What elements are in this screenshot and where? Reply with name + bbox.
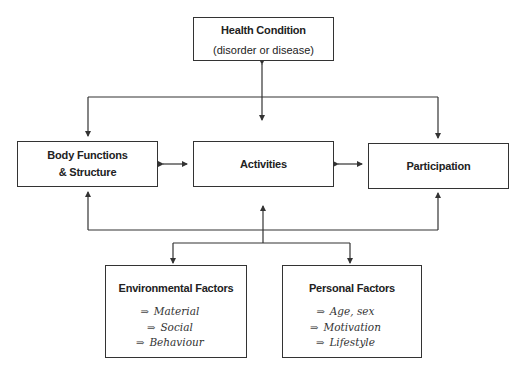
item-label: Lifestyle <box>329 336 375 348</box>
implies-arrow-icon: ⇒ <box>147 322 155 333</box>
health-condition-title: Health Condition <box>221 22 306 39</box>
list-item: ⇒Age, sex <box>310 304 381 320</box>
environmental-factors-title: Environmental Factors <box>119 280 234 297</box>
item-label: Behaviour <box>149 336 203 348</box>
implies-arrow-icon: ⇒ <box>316 337 324 348</box>
list-item: ⇒Behaviour <box>136 335 204 351</box>
implies-arrow-icon: ⇒ <box>140 306 148 317</box>
activities-box: Activities <box>193 141 334 187</box>
personal-factors-title: Personal Factors <box>309 280 395 297</box>
environmental-factors-list: ⇒Material ⇒Social ⇒Behaviour <box>136 304 204 351</box>
health-condition-box: Health Condition (disorder or disease) <box>193 17 334 61</box>
participation-title: Participation <box>406 158 470 175</box>
implies-arrow-icon: ⇒ <box>136 337 144 348</box>
item-label: Motivation <box>323 321 381 333</box>
item-label: Social <box>160 321 192 333</box>
implies-arrow-icon: ⇒ <box>310 322 318 333</box>
implies-arrow-icon: ⇒ <box>316 306 324 317</box>
health-condition-subtitle: (disorder or disease) <box>213 44 314 56</box>
list-item: ⇒Social <box>136 320 204 336</box>
body-functions-line1: Body Functions <box>47 147 127 164</box>
item-label: Material <box>154 305 199 317</box>
body-functions-line2: & Structure <box>59 164 117 181</box>
environmental-factors-box: Environmental Factors ⇒Material ⇒Social … <box>105 265 247 358</box>
personal-factors-box: Personal Factors ⇒Age, sex ⇒Motivation ⇒… <box>282 265 422 358</box>
participation-box: Participation <box>368 143 509 189</box>
body-functions-box: Body Functions & Structure <box>17 141 158 187</box>
item-label: Age, sex <box>330 305 375 317</box>
list-item: ⇒Material <box>136 304 204 320</box>
personal-factors-list: ⇒Age, sex ⇒Motivation ⇒Lifestyle <box>310 304 381 351</box>
list-item: ⇒Lifestyle <box>310 335 381 351</box>
activities-title: Activities <box>240 156 287 173</box>
list-item: ⇒Motivation <box>310 320 381 336</box>
